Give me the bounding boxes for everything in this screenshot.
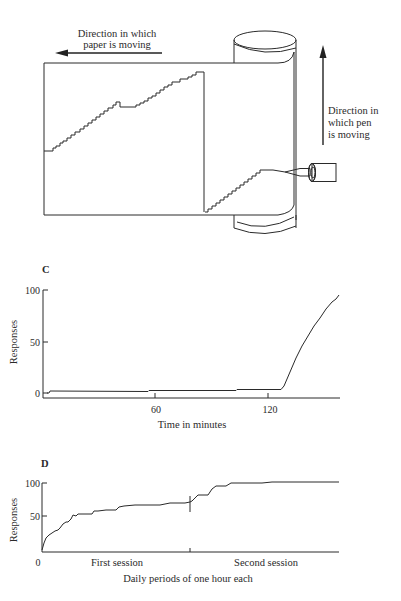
paper-direction-label-line2: paper is moving <box>83 39 151 50</box>
record-trace-1 <box>44 72 204 212</box>
up-arrow-icon <box>320 45 327 145</box>
c-xtick-120: 120 <box>263 404 278 415</box>
record-trace-2 <box>205 170 285 212</box>
d-origin-label: 0 <box>36 557 41 568</box>
c-ytick-50: 50 <box>30 337 40 348</box>
pen <box>285 164 336 182</box>
paper-strip <box>44 52 294 215</box>
chart-d: D 100 50 0 First session Second session … <box>8 458 339 584</box>
figure-canvas: Direction in which paper is moving <box>0 0 401 601</box>
c-y-axis-label: Responses <box>8 320 19 364</box>
pen-direction-label-line3: is moving <box>328 129 370 140</box>
c-ytick-100: 100 <box>25 285 40 296</box>
d-ytick-50: 50 <box>30 511 40 522</box>
cumulative-recorder-diagram: Direction in which paper is moving <box>44 28 379 234</box>
d-session2-label: Second session <box>234 557 299 568</box>
c-xtick-60: 60 <box>151 404 161 415</box>
d-y-axis-label: Responses <box>8 498 19 542</box>
paper-direction-label-line1: Direction in which <box>78 28 157 39</box>
d-ytick-100: 100 <box>25 478 40 489</box>
pen-direction-label-line1: Direction in <box>328 105 379 116</box>
pen-direction-label-line2: which pen <box>328 117 372 128</box>
panel-label-d: D <box>41 458 49 469</box>
panel-label-c: C <box>42 264 50 275</box>
c-data-line <box>47 295 339 393</box>
c-ytick-0: 0 <box>35 388 40 399</box>
c-x-axis-label: Time in minutes <box>158 419 226 430</box>
d-x-axis-label: Daily periods of one hour each <box>123 573 253 584</box>
chart-c: C 100 50 0 60 120 Responses Time in minu… <box>8 264 340 430</box>
left-arrow-icon <box>55 50 162 57</box>
d-data-line <box>42 482 339 550</box>
d-session1-label: First session <box>91 557 144 568</box>
